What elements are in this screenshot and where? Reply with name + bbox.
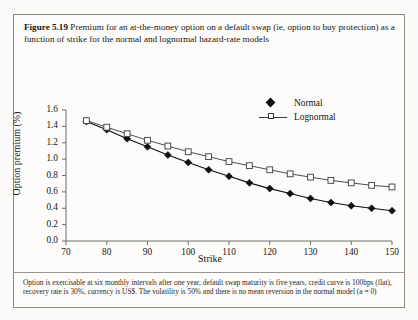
y-tick-label: 0.2 xyxy=(34,219,58,229)
data-point-lognormal xyxy=(267,167,273,173)
data-point-lognormal xyxy=(124,131,130,137)
filled-diamond-icon xyxy=(258,97,288,109)
data-point-normal xyxy=(205,166,212,173)
data-point-lognormal xyxy=(226,159,232,165)
legend-item-lognormal: Lognormal xyxy=(258,110,336,124)
data-point-lognormal xyxy=(328,178,334,184)
footnote-divider xyxy=(14,272,404,273)
figure-label: Figure 5.19 xyxy=(24,22,68,32)
data-point-normal xyxy=(307,195,314,202)
y-tick-label: 1.6 xyxy=(34,104,58,114)
legend-label-normal: Normal xyxy=(294,98,323,108)
x-tick-label: 120 xyxy=(257,247,283,257)
x-tick-label: 80 xyxy=(94,247,120,257)
data-point-normal xyxy=(226,173,233,180)
data-point-lognormal xyxy=(185,149,191,155)
series-line-lognormal xyxy=(86,121,392,187)
figure-caption-text: Premium for an at-the-money option on a … xyxy=(24,22,395,44)
chart-legend: Normal Lognormal xyxy=(258,96,336,124)
y-tick-label: 0.6 xyxy=(34,186,58,196)
x-tick-label: 150 xyxy=(379,247,405,257)
figure-caption: Figure 5.19 Premium for an at-the-money … xyxy=(24,22,396,45)
data-point-normal xyxy=(185,159,192,166)
data-point-normal xyxy=(348,202,355,209)
data-point-lognormal xyxy=(104,124,110,130)
figure-footnote: Option is exercisable at six monthly int… xyxy=(23,278,397,297)
data-point-normal xyxy=(327,199,334,206)
y-tick-label: 0.8 xyxy=(34,170,58,180)
y-tick-label: 1.0 xyxy=(34,153,58,163)
data-point-normal xyxy=(164,152,171,159)
x-tick-label: 110 xyxy=(216,247,242,257)
data-point-normal xyxy=(246,179,253,186)
x-tick-label: 140 xyxy=(338,247,364,257)
y-tick-label: 1.4 xyxy=(34,120,58,130)
data-point-lognormal xyxy=(308,174,314,180)
data-point-lognormal xyxy=(246,163,252,169)
y-tick-label: 0.0 xyxy=(34,235,58,245)
x-tick-label: 130 xyxy=(298,247,324,257)
data-point-lognormal xyxy=(165,143,171,149)
y-axis-label: Option premium (%) xyxy=(11,94,22,214)
data-point-normal xyxy=(389,207,396,214)
x-tick-label: 100 xyxy=(175,247,201,257)
data-point-lognormal xyxy=(83,118,89,124)
x-tick-label: 90 xyxy=(135,247,161,257)
data-point-lognormal xyxy=(369,182,375,188)
data-point-lognormal xyxy=(287,171,293,177)
data-point-lognormal xyxy=(389,184,395,190)
x-tick-label: 70 xyxy=(53,247,79,257)
chart-svg xyxy=(0,86,418,266)
open-square-icon xyxy=(258,111,288,123)
legend-label-lognormal: Lognormal xyxy=(294,112,336,122)
series-line-normal xyxy=(86,121,392,210)
y-tick-label: 0.4 xyxy=(34,202,58,212)
x-axis-label: Strike xyxy=(150,253,270,264)
data-point-normal xyxy=(266,185,273,192)
data-point-lognormal xyxy=(145,137,151,143)
data-point-lognormal xyxy=(348,180,354,186)
data-point-normal xyxy=(287,190,294,197)
y-tick-label: 1.2 xyxy=(34,137,58,147)
data-point-normal xyxy=(144,143,151,150)
data-point-normal xyxy=(368,205,375,212)
chart-plot-area: Option premium (%) Strike Normal Lognorm… xyxy=(0,86,418,266)
data-point-lognormal xyxy=(206,154,212,160)
figure-page: Figure 5.19 Premium for an at-the-money … xyxy=(0,0,418,320)
legend-item-normal: Normal xyxy=(258,96,336,110)
